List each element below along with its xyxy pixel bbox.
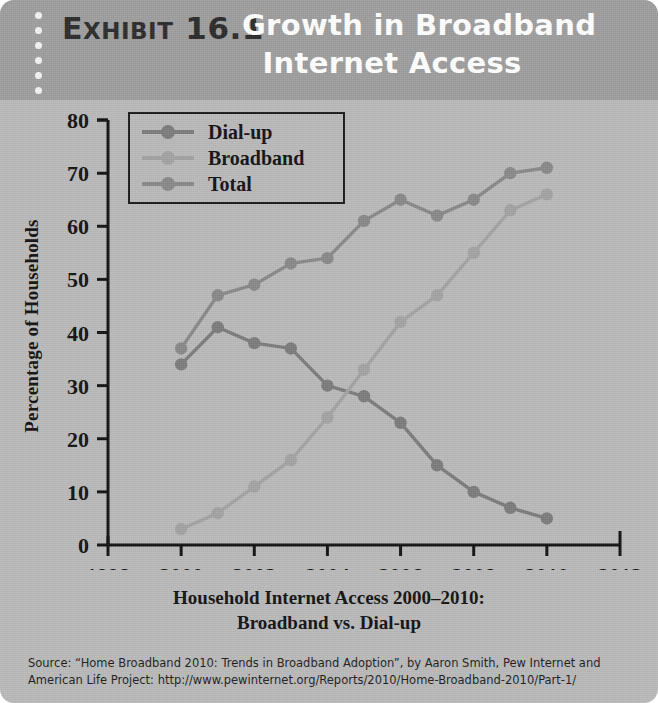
svg-text:60: 60 [67, 214, 89, 239]
exhibit-label: EXHIBIT16.1 [62, 10, 264, 46]
figure-card: EXHIBIT16.1 Growth in Broadband Internet… [0, 0, 658, 703]
exhibit-title: Growth in Broadband Internet Access [242, 6, 642, 82]
legend-label-total: Total [208, 173, 252, 196]
exhibit-title-line-2: Internet Access [242, 44, 542, 82]
chart-legend: Dial-up Broadband Total [128, 112, 345, 204]
source-line-2: American Life Project: http://www.pewint… [28, 672, 636, 689]
legend-swatch-broadband [142, 156, 194, 160]
svg-text:80: 80 [67, 108, 89, 133]
source-line-1: Source: “Home Broadband 2010: Trends in … [28, 655, 636, 672]
svg-text:2004: 2004 [305, 563, 349, 570]
legend-item-total: Total [130, 171, 343, 197]
decoration-dot [35, 12, 42, 19]
svg-text:20: 20 [67, 427, 89, 452]
decoration-dot [35, 27, 42, 34]
svg-text:10: 10 [67, 480, 89, 505]
legend-label-dial-up: Dial-up [208, 121, 272, 144]
decoration-dot [35, 87, 42, 94]
svg-text:2002: 2002 [232, 563, 276, 570]
y-axis-ticks: 01020304050607080 [67, 108, 108, 558]
exhibit-word-initial: E [62, 11, 83, 46]
exhibit-title-line-1: Growth in Broadband [242, 8, 596, 42]
source-note: Source: “Home Broadband 2010: Trends in … [28, 655, 636, 689]
data-series-group [175, 162, 553, 536]
svg-text:30: 30 [67, 374, 89, 399]
svg-text:2010: 2010 [525, 563, 569, 570]
legend-item-dial-up: Dial-up [130, 119, 343, 145]
caption-line-2: Broadband vs. Dial-up [0, 610, 658, 635]
decoration-dot [35, 42, 42, 49]
svg-text:2008: 2008 [452, 563, 496, 570]
figure-caption: Household Internet Access 2000–2010: Bro… [0, 585, 658, 635]
legend-swatch-total [142, 182, 194, 186]
legend-item-broadband: Broadband [130, 145, 343, 171]
svg-text:2012: 2012 [598, 563, 642, 570]
chart-area: Percentage of Households 010203040506070… [0, 100, 658, 570]
decoration-dot [35, 72, 42, 79]
legend-swatch-dial-up [142, 130, 194, 134]
caption-line-1: Household Internet Access 2000–2010: [0, 585, 658, 610]
svg-text:2000: 2000 [159, 563, 203, 570]
svg-text:50: 50 [67, 267, 89, 292]
svg-text:1998: 1998 [86, 563, 130, 570]
decoration-dot [35, 57, 42, 64]
svg-text:0: 0 [78, 533, 89, 558]
svg-text:40: 40 [67, 321, 89, 346]
svg-text:2006: 2006 [379, 563, 423, 570]
legend-label-broadband: Broadband [208, 147, 304, 170]
exhibit-word-rest: XHIBIT [83, 18, 173, 44]
x-axis-ticks: 19982000200220042006200820102012 [86, 531, 642, 570]
exhibit-header-band: EXHIBIT16.1 Growth in Broadband Internet… [0, 0, 658, 100]
svg-text:70: 70 [67, 161, 89, 186]
dot-column-decoration [33, 12, 43, 94]
exhibit-figure: EXHIBIT16.1 Growth in Broadband Internet… [0, 0, 658, 703]
